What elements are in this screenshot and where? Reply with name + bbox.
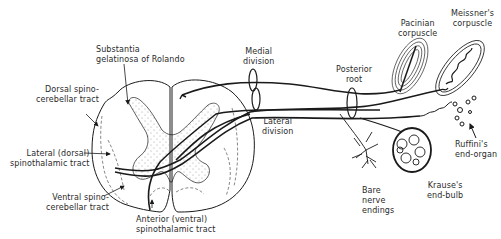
label-lateral-division: Lateral division bbox=[262, 117, 293, 137]
ruffini-end-organ-drawing bbox=[420, 96, 476, 138]
label-anterior-spinothalamic-tract: Anterior (ventral) spinothalamic tract bbox=[136, 215, 215, 235]
meissner-corpuscle-drawing bbox=[427, 33, 492, 103]
label-medial-division: Medial division bbox=[243, 47, 274, 67]
label-substantia-gelatinosa: Substantia gelatinosa of Rolando bbox=[96, 45, 185, 65]
label-ventral-spinocerebellar-tract: Ventral spino- cerebellar tract bbox=[46, 193, 109, 213]
label-posterior-root: Posterior root bbox=[336, 65, 372, 85]
label-ruffini-end-organ: Ruffini's end-organ bbox=[455, 140, 497, 160]
label-pacinian-corpuscle: Pacinian corpuscle bbox=[398, 19, 437, 39]
pacinian-corpuscle-drawing bbox=[385, 33, 436, 99]
medial-branch-tick bbox=[180, 95, 186, 99]
label-lateral-spinothalamic-tract: Lateral (dorsal) spinothalamic tract bbox=[10, 149, 89, 169]
label-dorsal-spinocerebellar-tract: Dorsal spino- cerebellar tract bbox=[36, 85, 99, 105]
label-meissner-corpuscle: Meissner's corpuscle bbox=[451, 9, 494, 29]
label-bare-nerve-endings: Bare nerve endings bbox=[362, 186, 394, 216]
krause-end-bulb-drawing bbox=[360, 118, 431, 172]
label-krause-end-bulb: Krause's end-bulb bbox=[427, 181, 463, 201]
